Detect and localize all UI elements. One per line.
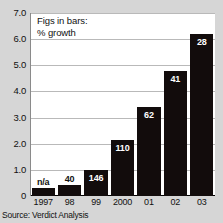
- y-axis: 01.02.03.04.05.06.07.0: [0, 0, 30, 223]
- y-tick-label: 7.0: [13, 8, 26, 18]
- y-tick-label: 6.0: [13, 34, 26, 44]
- annotation-line-1: Figs in bars:: [37, 15, 87, 27]
- bar: [32, 188, 55, 196]
- bar-value-label: 41: [164, 75, 187, 84]
- bar-series: n/a40146110624128: [30, 13, 215, 196]
- annotation-line-2: % growth: [37, 27, 87, 39]
- x-tick-label: 02: [164, 198, 187, 207]
- x-tick-label: 03: [190, 198, 213, 207]
- bar-value-label: 146: [84, 174, 107, 183]
- bar-value-label: 110: [111, 144, 134, 153]
- bar: [58, 185, 81, 196]
- bar: [164, 71, 187, 196]
- y-tick-label: 1.0: [13, 165, 26, 175]
- bar-slot: 28: [190, 13, 213, 196]
- bar-slot: 146: [84, 13, 107, 196]
- bar: [190, 34, 213, 196]
- chart-annotation: Figs in bars: % growth: [37, 15, 87, 39]
- bar-slot: 40: [58, 13, 81, 196]
- source-note: Source: Verdict Analysis: [2, 211, 88, 220]
- bar-value-label: 40: [58, 175, 81, 184]
- x-tick-label: 01: [137, 198, 160, 207]
- y-tick-label: 4.0: [13, 87, 26, 97]
- bar-slot: 62: [137, 13, 160, 196]
- x-tick-label: 1997: [32, 198, 55, 207]
- bar-value-label: n/a: [32, 178, 55, 187]
- bar-slot: 110: [111, 13, 134, 196]
- y-tick-label: 5.0: [13, 61, 26, 71]
- bar: [137, 107, 160, 196]
- y-tick-label: 2.0: [13, 139, 26, 149]
- bar-value-label: 62: [137, 111, 160, 120]
- y-tick-label: 0: [21, 191, 26, 201]
- x-tick-label: 99: [84, 198, 107, 207]
- chart-figure: 01.02.03.04.05.06.07.0 n/a40146110624128…: [0, 0, 223, 223]
- bar-slot: n/a: [32, 13, 55, 196]
- bar-slot: 41: [164, 13, 187, 196]
- x-tick-label: 2000: [111, 198, 134, 207]
- x-tick-label: 98: [58, 198, 81, 207]
- y-tick-label: 3.0: [13, 113, 26, 123]
- bar-value-label: 28: [190, 38, 213, 47]
